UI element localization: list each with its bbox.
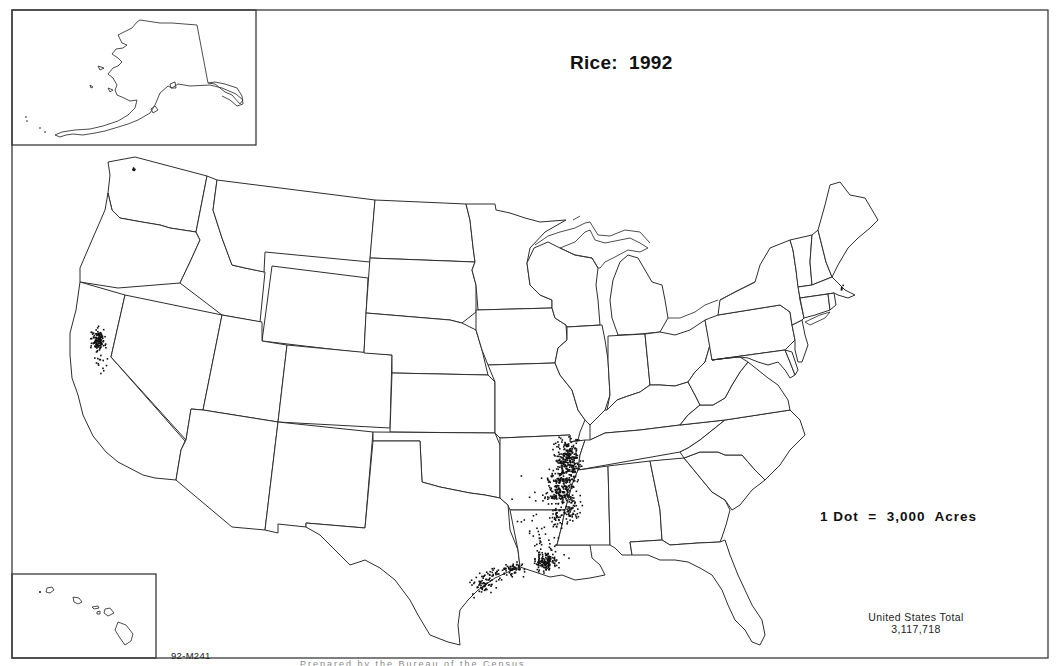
hawaii-inset-frame: [12, 574, 156, 658]
alaska-inset-frame: [12, 10, 256, 145]
map-code: 92-M241: [171, 650, 211, 661]
alaska-outline: [25, 20, 243, 137]
state-kansas: [390, 373, 495, 433]
state-florida: [630, 540, 765, 645]
us-total: United States Total 3,117,718: [846, 611, 986, 635]
map-title: Rice: 1992: [570, 52, 673, 74]
lake-erie-shore: [668, 300, 718, 318]
footer-credit: Prepared by the Bureau of the Census: [300, 659, 526, 666]
state-new-mexico: [265, 422, 373, 533]
hawaii-outline: [39, 587, 133, 645]
lower-48-states: [70, 157, 878, 645]
state-south-dakota: [366, 258, 476, 323]
isle-royale: [573, 216, 580, 220]
dot-legend: 1 Dot = 3,000 Acres: [820, 509, 977, 524]
state-wyoming: [262, 266, 368, 353]
state-montana: [213, 180, 375, 272]
state-maine: [818, 182, 878, 277]
rice-dot-map: Rice: 1992 1 Dot = 3,000 Acres United St…: [0, 0, 1060, 666]
state-arizona: [176, 409, 278, 530]
state-michigan: [610, 255, 668, 335]
us-total-value: 3,117,718: [846, 623, 986, 635]
state-iowa: [476, 308, 567, 365]
state-colorado: [278, 345, 392, 428]
state-rhode-island: [828, 293, 836, 310]
state-north-dakota: [370, 200, 475, 262]
map-canvas: [0, 0, 1060, 666]
us-total-label: United States Total: [846, 611, 986, 623]
state-connecticut: [800, 294, 830, 318]
